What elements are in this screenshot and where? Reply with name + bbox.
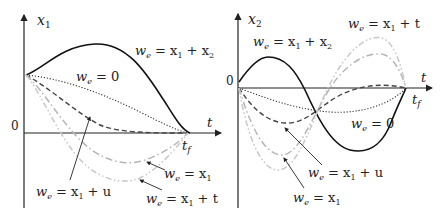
right-pointer-x1 xyxy=(284,158,304,188)
left-label-x1t: we = x1 + t xyxy=(146,191,219,208)
right-label-x1: we = x1 xyxy=(293,190,340,207)
figure: x1 0 t tf we = x1 + x2 we = 0 we = x1 + … xyxy=(0,0,447,221)
right-label-x1t: we = x1 + t xyxy=(348,16,421,33)
left-zero-label: 0 xyxy=(11,119,19,133)
left-pointer-x1u xyxy=(70,117,90,180)
right-label-zero: we = 0 xyxy=(351,116,394,133)
right-label-x1u: we = x1 + u xyxy=(308,165,383,182)
right-label-x1x2: we = x1 + x2 xyxy=(253,34,332,51)
left-label-zero: we = 0 xyxy=(76,69,119,86)
left-label-x1: we = x1 xyxy=(164,166,211,183)
right-curve-x1x2 xyxy=(239,57,406,151)
right-pointer-x1u xyxy=(285,128,322,165)
left-pointer-x1 xyxy=(147,162,165,170)
right-plot: x2 0 t tf we = x1 + t we = x1 + x2 we = … xyxy=(226,11,432,208)
right-y-label: x2 xyxy=(248,11,262,29)
left-label-x1u: we = x1 + u xyxy=(36,184,111,201)
right-zero-label: 0 xyxy=(226,74,234,88)
right-curve-zero xyxy=(239,88,406,112)
left-y-label: x1 xyxy=(37,12,51,30)
right-t-label: t xyxy=(421,70,427,85)
right-tf-label: tf xyxy=(412,92,422,109)
left-pointer-x1t xyxy=(140,180,162,190)
left-curve-x1 xyxy=(26,75,188,163)
left-plot: x1 0 t tf we = x1 + x2 we = 0 we = x1 + … xyxy=(11,12,221,208)
left-t-label: t xyxy=(207,115,213,130)
left-tf-label: tf xyxy=(182,138,192,155)
left-label-x1x2: we = x1 + x2 xyxy=(135,43,214,60)
